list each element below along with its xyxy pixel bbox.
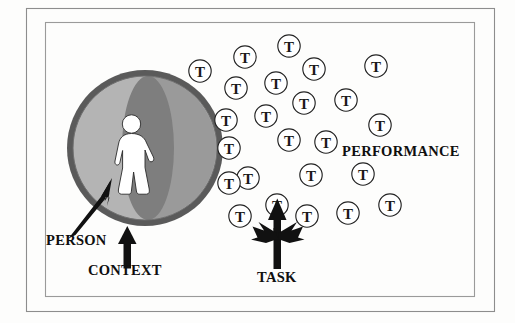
task-letter: T — [299, 96, 309, 112]
task-trident-arrow — [251, 199, 305, 270]
task-circle: T — [234, 46, 256, 68]
diagram-canvas: TTTTTTTTTTTTTTTTTTTTTTTT PERSON CONTEXT … — [0, 0, 515, 323]
task-circle: T — [229, 205, 251, 227]
task-letter: T — [224, 141, 234, 157]
task-letter: T — [243, 171, 253, 187]
task-letter: T — [224, 176, 234, 192]
task-circle: T — [352, 163, 374, 185]
task-circle: T — [293, 92, 315, 114]
label-context: CONTEXT — [88, 262, 162, 278]
task-letter: T — [195, 64, 205, 80]
task-circle: T — [278, 129, 300, 151]
task-circle: T — [300, 164, 322, 186]
task-circle: T — [315, 131, 337, 153]
task-circle: T — [189, 60, 211, 82]
person-head — [122, 115, 140, 133]
task-circle: T — [337, 202, 359, 224]
task-letter: T — [284, 133, 294, 149]
task-letter: T — [358, 167, 368, 183]
task-letter: T — [321, 135, 331, 151]
task-circle: T — [265, 72, 287, 94]
task-letter: T — [371, 59, 381, 75]
task-letter: T — [231, 81, 241, 97]
task-letter: T — [284, 39, 294, 55]
label-task: TASK — [257, 269, 297, 285]
task-letter: T — [271, 76, 281, 92]
task-letter: T — [385, 198, 395, 214]
task-circle: T — [335, 89, 357, 111]
task-circle: T — [255, 105, 277, 127]
task-letter: T — [221, 113, 231, 129]
task-circle: T — [218, 172, 240, 194]
task-circle: T — [303, 58, 325, 80]
task-letter: T — [306, 168, 316, 184]
task-letter: T — [309, 62, 319, 78]
task-letter: T — [375, 118, 385, 134]
task-circle: T — [218, 137, 240, 159]
task-letter: T — [261, 109, 271, 125]
task-letter: T — [341, 93, 351, 109]
task-circle: T — [225, 77, 247, 99]
task-letter: T — [343, 206, 353, 222]
task-letter: T — [240, 50, 250, 66]
label-performance: PERFORMANCE — [342, 143, 460, 159]
task-circle: T — [379, 194, 401, 216]
task-letter: T — [235, 209, 245, 225]
task-letter: T — [302, 209, 312, 225]
task-circle: T — [215, 109, 237, 131]
task-circle: T — [365, 55, 387, 77]
task-circle: T — [369, 114, 391, 136]
task-circle: T — [296, 205, 318, 227]
label-person: PERSON — [46, 232, 107, 248]
figure-root: TTTTTTTTTTTTTTTTTTTTTTTT PERSON CONTEXT … — [0, 0, 515, 323]
task-circle: T — [278, 35, 300, 57]
